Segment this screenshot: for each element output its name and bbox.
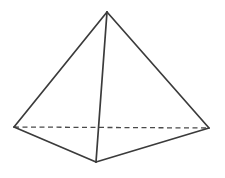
pyramid-diagram-svg (0, 0, 225, 178)
pyramid-figure (0, 0, 225, 178)
